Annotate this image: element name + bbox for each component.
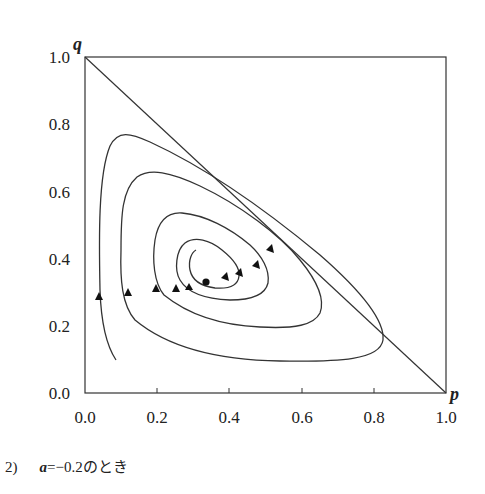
svg-text:0.2: 0.2 xyxy=(49,317,70,336)
fixed-point-marker xyxy=(202,278,209,285)
svg-text:0.6: 0.6 xyxy=(291,408,312,427)
arrow-up-icon xyxy=(185,283,193,290)
arrow-down-right-icon xyxy=(266,244,274,253)
x-tick-marks xyxy=(157,388,374,393)
svg-text:0.2: 0.2 xyxy=(146,408,167,427)
arrow-down-right-icon xyxy=(221,272,229,281)
x-tick-labels: 0.0 0.2 0.4 0.6 0.8 1.0 xyxy=(74,408,456,427)
y-axis-label: q xyxy=(73,34,82,54)
svg-text:1.0: 1.0 xyxy=(49,48,70,67)
svg-text:0.4: 0.4 xyxy=(218,408,240,427)
y-tick-labels: 0.0 0.2 0.4 0.6 0.8 1.0 xyxy=(49,48,71,403)
svg-text:1.0: 1.0 xyxy=(435,408,456,427)
svg-text:0.4: 0.4 xyxy=(49,250,71,269)
svg-text:0.0: 0.0 xyxy=(49,384,70,403)
figure-caption: 2)a=−0.2のとき xyxy=(5,455,128,476)
caption-number: 2) xyxy=(5,459,18,475)
arrow-up-icon xyxy=(172,284,180,292)
x-axis-label: p xyxy=(448,384,459,404)
boundary-line xyxy=(85,57,446,393)
phase-portrait-chart: 0.0 0.2 0.4 0.6 0.8 1.0 0.0 0.2 0.4 0.6 … xyxy=(0,0,485,494)
caption-variable: a xyxy=(40,459,48,475)
caption-text: =−0.2のとき xyxy=(47,459,128,475)
direction-arrows xyxy=(95,244,274,300)
arrow-up-icon xyxy=(95,292,103,300)
svg-text:0.0: 0.0 xyxy=(74,408,95,427)
svg-text:0.6: 0.6 xyxy=(49,183,70,202)
trajectory-curve xyxy=(99,135,383,362)
svg-text:0.8: 0.8 xyxy=(49,115,70,134)
arrow-up-icon xyxy=(124,288,132,296)
svg-text:0.8: 0.8 xyxy=(363,408,384,427)
arrow-down-right-icon xyxy=(252,260,260,269)
